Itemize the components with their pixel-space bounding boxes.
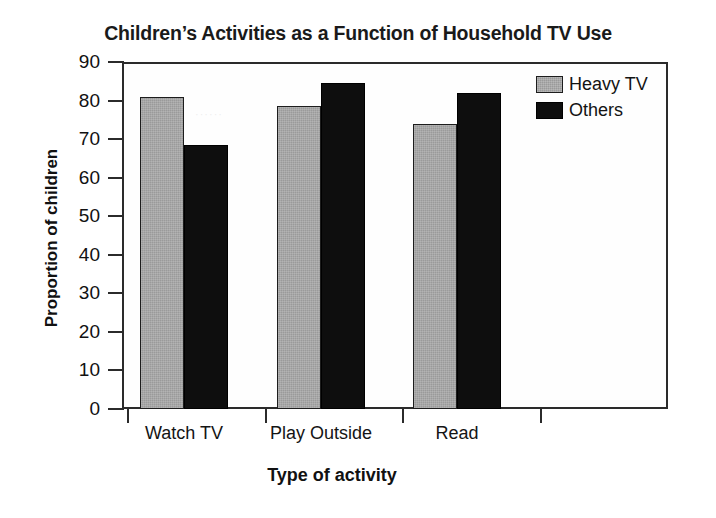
y-axis-tick (108, 254, 124, 256)
chart-legend: Heavy TVOthers (536, 72, 656, 124)
y-axis-tick-label: 50 (48, 206, 100, 225)
y-axis-tick (108, 408, 124, 410)
y-axis-tick-label: 60 (48, 168, 100, 187)
legend-swatch-icon (536, 76, 563, 93)
chart-title: Children’s Activities as a Function of H… (0, 22, 716, 45)
bar-watch-tv-others (184, 145, 228, 409)
bar-read-others (457, 93, 501, 409)
y-axis-tick-label: 0 (48, 399, 100, 418)
bar-play-outside-others (321, 83, 365, 409)
legend-item-heavy-tv[interactable]: Heavy TV (536, 72, 656, 96)
y-axis-tick (108, 177, 124, 179)
x-axis-tick (540, 409, 542, 423)
y-axis-tick-label: 30 (48, 283, 100, 302)
x-axis-tick (265, 409, 267, 423)
y-axis-tick (108, 292, 124, 294)
chart-page: Children’s Activities as a Function of H… (0, 0, 716, 518)
legend-label: Others (569, 100, 623, 121)
legend-label: Heavy TV (569, 74, 648, 95)
legend-swatch-icon (536, 102, 563, 119)
bar-watch-tv-heavy-tv (140, 97, 184, 409)
x-axis-tick (127, 409, 129, 423)
y-axis-tick (108, 331, 124, 333)
y-axis-tick-label: 40 (48, 245, 100, 264)
bar-read-heavy-tv (413, 124, 457, 409)
y-axis-tick (108, 138, 124, 140)
bar-play-outside-heavy-tv (277, 106, 321, 409)
x-axis-title: Type of activity (122, 465, 542, 486)
legend-item-others[interactable]: Others (536, 98, 656, 122)
y-axis-tick (108, 100, 124, 102)
y-axis-tick-label: 70 (48, 129, 100, 148)
y-axis-tick (108, 215, 124, 217)
y-axis-tick-label: 90 (48, 52, 100, 71)
y-axis-tick-label: 20 (48, 322, 100, 341)
x-axis-tick (402, 409, 404, 423)
y-axis-tick (108, 61, 124, 63)
y-axis-tick-label: 10 (48, 360, 100, 379)
y-axis-tick (108, 369, 124, 371)
x-axis-category-label: Read (367, 423, 547, 444)
y-axis-tick-label: 80 (48, 91, 100, 110)
